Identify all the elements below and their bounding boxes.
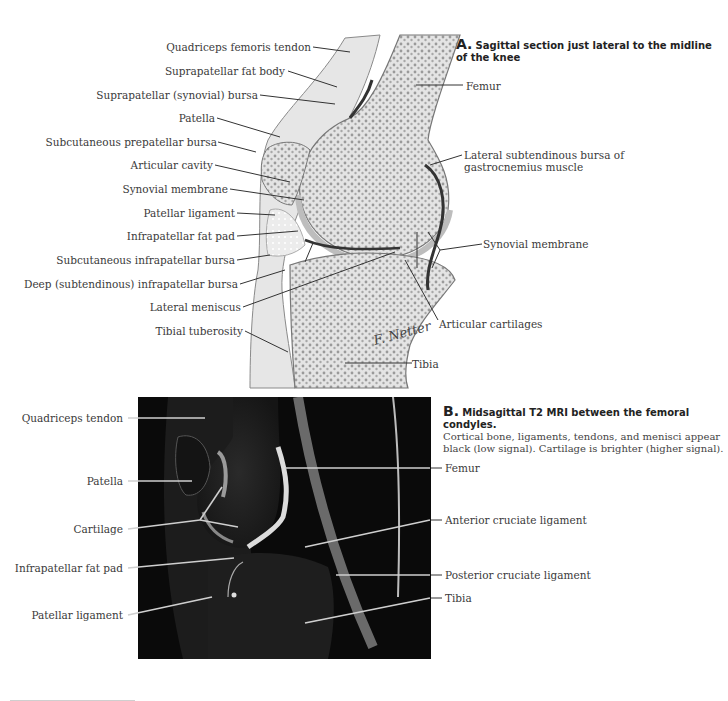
- label-synovial-membrane-left: Synovial membrane: [122, 183, 228, 195]
- label-suprapatellar-fat-body: Suprapatellar fat body: [165, 65, 285, 77]
- label-synovial-membrane-right: Synovial membrane: [483, 238, 589, 250]
- label-femur-a: Femur: [466, 80, 501, 92]
- label-infrapatellar-fat-pad-b: Infrapatellar fat pad: [15, 562, 123, 574]
- label-patella: Patella: [179, 112, 215, 124]
- panel-a-title: A. Sagittal section just lateral to the …: [456, 38, 726, 64]
- label-deep-infrapatellar-bursa: Deep (subtendinous) infrapatellar bursa: [24, 278, 238, 290]
- mri-anatomy-sketch: [138, 397, 431, 659]
- label-subcutaneous-prepatellar-bursa: Subcutaneous prepatellar bursa: [46, 136, 217, 148]
- label-lateral-meniscus: Lateral meniscus: [150, 301, 241, 313]
- label-femur-b: Femur: [445, 462, 480, 474]
- label-patellar-ligament: Patellar ligament: [144, 207, 235, 219]
- label-cartilage: Cartilage: [74, 523, 123, 535]
- panel-b-title: B. Midsagittal T2 MRI between the femora…: [443, 405, 728, 455]
- label-subcutaneous-infrapatellar-bursa: Subcutaneous infrapatellar bursa: [56, 254, 235, 266]
- label-tibial-tuberosity: Tibial tuberosity: [155, 325, 243, 337]
- label-quadriceps-tendon: Quadriceps tendon: [22, 412, 123, 424]
- label-patella-b: Patella: [87, 475, 123, 487]
- label-tibia-a: Tibia: [412, 358, 439, 370]
- label-infrapatellar-fat-pad: Infrapatellar fat pad: [127, 230, 235, 242]
- label-articular-cavity: Articular cavity: [131, 159, 213, 171]
- label-patellar-ligament-b: Patellar ligament: [32, 609, 123, 621]
- label-tibia-b: Tibia: [445, 592, 472, 604]
- label-quadriceps-femoris-tendon: Quadriceps femoris tendon: [166, 41, 311, 53]
- label-posterior-cruciate-ligament: Posterior cruciate ligament: [445, 569, 591, 581]
- label-lateral-bursa-gastrocnemius-2: gastrocnemius muscle: [464, 161, 583, 173]
- label-anterior-cruciate-ligament: Anterior cruciate ligament: [445, 514, 587, 526]
- mri-image: [138, 397, 431, 659]
- label-suprapatellar-bursa: Suprapatellar (synovial) bursa: [96, 89, 258, 101]
- label-articular-cartilages: Articular cartilages: [439, 318, 542, 330]
- label-lateral-bursa-gastrocnemius-1: Lateral subtendinous bursa of: [464, 149, 624, 161]
